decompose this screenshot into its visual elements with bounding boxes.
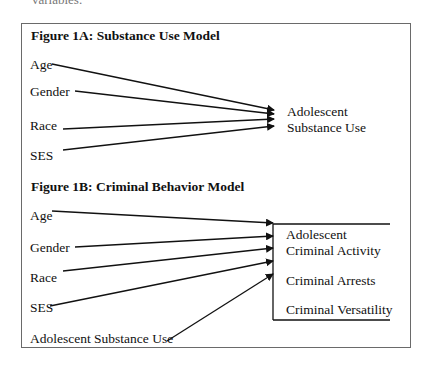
label-1b-criminal-arrests: Criminal Arrests (286, 273, 376, 288)
label-1a-gender: Gender (30, 84, 70, 99)
label-1b-criminal-versatility: Criminal Versatility (286, 302, 393, 317)
label-1b-outcome-line1: Adolescent (286, 227, 347, 242)
label-1a-age: Age (30, 57, 53, 72)
label-1b-outcome-line2: Criminal Activity (286, 243, 381, 258)
label-1b-substance-use: Adolescent Substance Use (30, 331, 173, 346)
label-1b-race: Race (30, 270, 57, 285)
figure-1a-title: Figure 1A: Substance Use Model (31, 28, 220, 44)
label-1b-gender: Gender (30, 240, 70, 255)
figure-1b-title: Figure 1B: Criminal Behavior Model (31, 179, 244, 195)
label-1a-outcome-line2: Substance Use (287, 120, 366, 135)
arrow-1b-ses (50, 261, 273, 306)
arrow-1b-substance-use (167, 274, 273, 341)
label-1a-ses: SES (30, 148, 53, 163)
label-1a-race: Race (30, 118, 57, 133)
label-1b-age: Age (30, 208, 53, 223)
arrow-1a-gender (75, 91, 274, 114)
label-1a-outcome-line1: Adolescent (287, 104, 348, 119)
arrow-1b-age (52, 211, 273, 223)
label-1b-ses: SES (30, 300, 53, 315)
arrow-1a-age (52, 64, 274, 110)
arrow-1a-ses (63, 126, 274, 150)
arrow-1a-race (63, 119, 274, 129)
arrow-1b-gender (75, 236, 273, 247)
